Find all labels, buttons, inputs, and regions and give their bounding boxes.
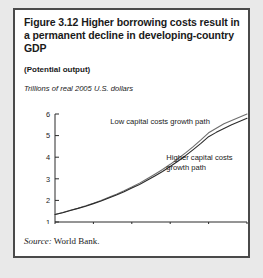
y-axis-tick-label: 1 (46, 218, 50, 224)
y-axis-tick-label: 2 (46, 196, 50, 205)
y-axis-tick-label: 4 (46, 153, 50, 162)
chart-plot-area: 123456200520102015202020252030Low capita… (15, 96, 250, 224)
source-label: Source: (24, 236, 52, 246)
y-axis-tick-label: 5 (46, 131, 50, 140)
figure-container: Figure 3.12 Higher borrowing costs resul… (13, 8, 250, 258)
y-axis-tick-label: 6 (46, 110, 50, 119)
y-axis-tick-label: 3 (46, 175, 50, 184)
figure-title: Figure 3.12 Higher borrowing costs resul… (24, 16, 242, 56)
figure-subtitle: (Potential output) (24, 65, 90, 74)
series-line (55, 118, 247, 214)
line-chart: 123456200520102015202020252030Low capita… (15, 96, 250, 224)
annotation-low-capital-costs: Low capital costs growth path (110, 117, 210, 126)
source-note: Source: World Bank. (24, 236, 100, 246)
source-value: World Bank. (54, 236, 100, 246)
annotation-higher-capital-costs: Higher capital costsgrowth path (166, 153, 232, 172)
series-line (55, 114, 247, 214)
y-axis-caption: Trillions of real 2005 U.S. dollars (24, 84, 133, 93)
